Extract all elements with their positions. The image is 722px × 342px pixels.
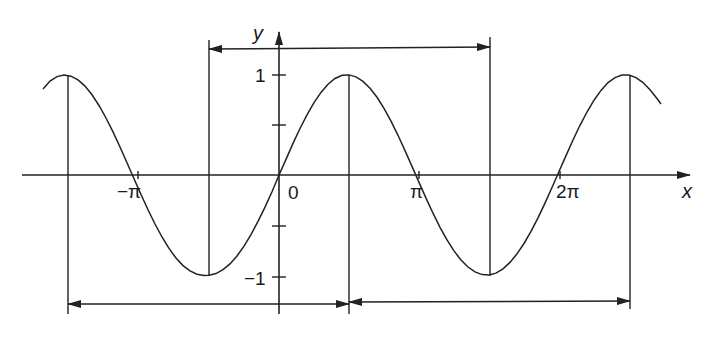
sine-graph-figure: y x 1 −1 −π 0 π 2π bbox=[0, 0, 722, 342]
x-tick-label-neg-pi: −π bbox=[117, 181, 141, 202]
x-tick-label-2pi: 2π bbox=[556, 181, 580, 202]
period-arrow-bottom-right bbox=[349, 301, 630, 302]
y-tick-label-1: 1 bbox=[255, 65, 266, 86]
x-tick-label-pi: π bbox=[410, 181, 423, 202]
x-tick-label-zero: 0 bbox=[288, 182, 299, 203]
y-tick-label-neg-1: −1 bbox=[244, 268, 266, 289]
x-axis-label: x bbox=[681, 180, 693, 202]
period-arrow-top bbox=[209, 47, 490, 49]
y-axis bbox=[272, 32, 286, 314]
y-axis-label: y bbox=[251, 22, 264, 44]
